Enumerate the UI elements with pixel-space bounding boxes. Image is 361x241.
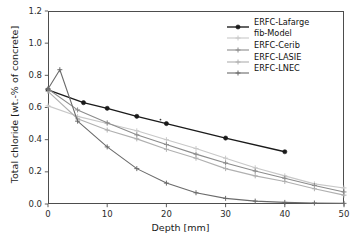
data-point	[224, 136, 228, 140]
data-point	[105, 106, 109, 110]
x-axis-title: Depth [mm]	[0, 222, 361, 233]
legend-label: ERFC-Lafarge	[254, 17, 309, 27]
legend-label: ERFC-LNEC	[254, 63, 300, 73]
x-tick-label: 40	[273, 209, 297, 219]
legend-label: ERFC-LASIE	[254, 52, 301, 62]
legend-swatch-icon	[226, 28, 250, 38]
x-tick-label: 0	[36, 209, 60, 219]
y-tick-label: 1.0	[18, 38, 42, 48]
series-line	[48, 70, 344, 204]
legend-item-erfc-cerib[interactable]: ERFC-Cerib	[226, 39, 340, 51]
y-tick-label: 0.0	[18, 199, 42, 209]
legend-swatch-icon	[226, 40, 250, 50]
x-tick-label: 50	[332, 209, 356, 219]
chart-figure: 0.00.20.40.60.81.01.2 01020304050 Depth …	[0, 0, 361, 241]
legend-item-erfc-lafarge[interactable]: ERFC-Lafarge	[226, 16, 340, 28]
legend-item-erfc-lasie[interactable]: ERFC-LASIE	[226, 51, 340, 63]
data-point	[164, 121, 168, 125]
y-axis-title: Total chloride [wt.-% of concrete]	[9, 25, 20, 185]
y-tick-label: 0.8	[18, 70, 42, 80]
y-tick-label: 0.2	[18, 166, 42, 176]
legend-label: ERFC-Cerib	[254, 40, 300, 50]
chart-legend: ERFC-Lafargefib-ModelERFC-CeribERFC-LASI…	[224, 14, 342, 76]
legend-label: fib-Model	[254, 28, 292, 38]
series-fib-model	[46, 103, 347, 190]
legend-item-erfc-lnec[interactable]: ERFC-LNEC	[226, 62, 340, 74]
data-point	[81, 101, 85, 105]
legend-swatch-icon	[226, 17, 250, 27]
x-tick-label: 30	[214, 209, 238, 219]
legend-swatch-icon	[226, 63, 250, 73]
stray-marker-icon	[160, 119, 162, 121]
series-erfc-lasie	[46, 89, 347, 198]
series-erfc-cerib	[46, 87, 347, 195]
data-point	[283, 150, 287, 154]
legend-item-fib-model[interactable]: fib-Model	[226, 28, 340, 40]
data-point	[135, 114, 139, 118]
y-tick-label: 0.4	[18, 134, 42, 144]
y-tick-label: 0.6	[18, 102, 42, 112]
x-tick-label: 10	[95, 209, 119, 219]
y-tick-label: 1.2	[18, 6, 42, 16]
legend-swatch-icon	[226, 52, 250, 62]
x-tick-label: 20	[154, 209, 178, 219]
